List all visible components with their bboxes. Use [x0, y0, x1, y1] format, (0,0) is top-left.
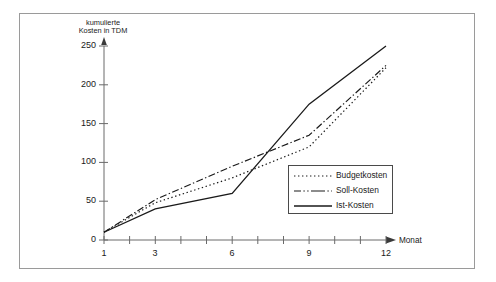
x-tick-label-6: 6	[222, 249, 242, 259]
legend-swatch-budgetkosten	[294, 175, 332, 177]
legend-label-soll-kosten: Soll-Kosten	[336, 185, 379, 195]
y-tick-label-100: 100	[68, 157, 96, 167]
x-axis-arrow	[386, 236, 396, 243]
x-tick-label-1: 1	[94, 249, 114, 259]
legend-label-budgetkosten: Budgetkosten	[336, 170, 387, 180]
y-tick-label-250: 250	[68, 41, 96, 51]
y-axis-arrow	[101, 37, 107, 45]
x-tick-label-9: 9	[299, 249, 319, 259]
y-tick-label-50: 50	[68, 196, 96, 206]
legend-swatch-ist-kosten	[294, 205, 332, 207]
legend-item-ist-kosten: Ist-Kosten	[289, 198, 394, 214]
x-axis-title: Monat	[399, 236, 422, 245]
legend-swatch-soll-kosten	[294, 190, 332, 192]
chart-figure: kumulierte Kosten in TDM Monat 0 50 100 …	[0, 0, 496, 282]
legend-item-soll-kosten: Soll-Kosten	[289, 183, 394, 199]
y-tick-label-0: 0	[68, 235, 96, 245]
legend-label-ist-kosten: Ist-Kosten	[336, 200, 374, 210]
y-tick-label-150: 150	[68, 119, 96, 129]
y-axis-title: kumulierte Kosten in TDM	[68, 19, 138, 35]
y-tick-label-200: 200	[68, 80, 96, 90]
y-axis-title-line2: Kosten in TDM	[68, 27, 138, 35]
x-tick-label-12: 12	[376, 249, 396, 259]
x-tick-label-3: 3	[145, 249, 165, 259]
legend-item-budgetkosten: Budgetkosten	[289, 168, 394, 184]
legend: Budgetkosten Soll-Kosten Ist-Kosten	[288, 165, 393, 214]
